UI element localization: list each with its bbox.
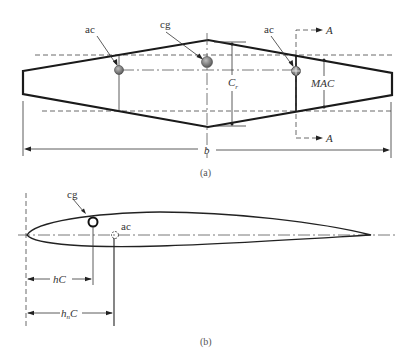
cg-marker [202,57,213,68]
cg-leader [166,32,201,58]
ac-marker-left [115,66,124,75]
ac-left-leader [97,36,116,64]
hnc-arrow-left [27,311,34,315]
hc-arrow-left [27,277,34,281]
section-label-bottom: A [325,132,333,144]
cg-label: cg [160,18,171,30]
hc-arrow-right [85,277,92,281]
mac-tick-top [323,59,326,62]
airfoil-outline [27,212,371,247]
hnc-arrow-right [106,311,113,315]
wing-diagram: Cr MAC A A ac cg ac [0,0,410,359]
airfoil-section-view: cg ac hC hnC (b) [18,188,396,348]
cg-label-b: cg [67,188,78,200]
mac-tick-bottom [323,106,326,109]
span-label: b [204,144,210,156]
cg-marker-ring [89,218,98,227]
span-arrow-left [24,147,31,152]
span-arrow-right [383,148,390,153]
ac-label-b: ac [121,220,131,232]
cg-leader-arrow [196,54,203,60]
section-arrow-bottom [316,136,323,141]
planform-view: Cr MAC A A ac cg ac [23,18,392,179]
hnc-label: hnC [61,307,78,321]
root-chord-tick-bottom [231,123,234,126]
section-label-top: A [325,24,333,36]
ac-left-label: ac [85,23,95,35]
hc-label: hC [53,273,67,285]
mac-label: MAC [310,77,335,89]
ac-marker-right [292,67,301,76]
ac-right-leader [271,36,292,65]
caption-a: (a) [200,167,211,179]
caption-b: (b) [200,336,212,348]
ac-marker-b [112,232,119,239]
ac-right-label: ac [264,23,274,35]
section-arrow-top [316,28,323,33]
root-chord-tick-top [231,43,234,46]
